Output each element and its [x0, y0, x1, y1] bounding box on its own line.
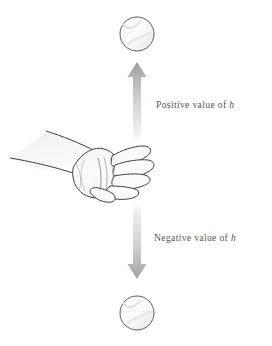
physics-figure: Positive value of h Negative value of h [0, 0, 272, 346]
caption-positive-symbol: h [229, 99, 234, 110]
caption-negative-value: Negative value of h [154, 233, 236, 243]
ball-bottom [120, 296, 154, 330]
arm-and-open-hand [10, 131, 154, 202]
caption-positive-value: Positive value of h [156, 100, 234, 110]
caption-positive-lead: Positive value of [156, 99, 226, 110]
down-arrow [128, 205, 147, 279]
caption-negative-symbol: h [231, 232, 236, 243]
figure-canvas [0, 0, 272, 346]
ball-top [120, 17, 154, 51]
caption-negative-lead: Negative value of [154, 232, 228, 243]
up-arrow [128, 62, 147, 142]
